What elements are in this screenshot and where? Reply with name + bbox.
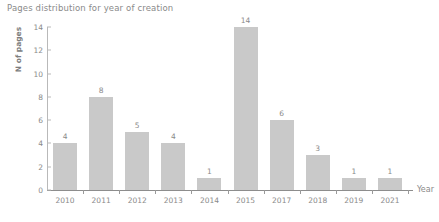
y-axis-tick-label: 12 xyxy=(0,46,47,55)
bar[interactable] xyxy=(378,178,402,190)
y-axis-tick-mark xyxy=(47,73,51,74)
y-axis-tick-mark xyxy=(47,166,51,167)
bar[interactable] xyxy=(270,120,294,190)
bar-value-label: 4 xyxy=(63,132,68,141)
bar-value-label: 6 xyxy=(279,109,284,118)
x-axis-tick-mark xyxy=(155,190,156,194)
bar-value-label: 1 xyxy=(207,167,212,176)
bar[interactable] xyxy=(306,155,330,190)
chart-title: Pages distribution for year of creation xyxy=(7,3,173,13)
y-axis-tick-mark xyxy=(47,96,51,97)
x-axis-tick-label: 2018 xyxy=(308,196,327,205)
x-axis-tick-mark xyxy=(336,190,337,194)
y-axis-tick-label: 6 xyxy=(0,116,47,125)
x-axis-tick-mark xyxy=(300,190,301,194)
y-axis-tick-mark xyxy=(47,190,51,191)
x-axis-tick-mark xyxy=(119,190,120,194)
x-axis-tick-label: 2010 xyxy=(56,196,75,205)
bar-chart: Pages distribution for year of creation … xyxy=(0,0,439,222)
x-axis-tick-mark xyxy=(408,190,409,194)
y-axis-tick-label: 2 xyxy=(0,162,47,171)
x-axis-tick-mark xyxy=(228,190,229,194)
x-axis-tick-label: 2011 xyxy=(92,196,111,205)
y-axis-tick-label: 8 xyxy=(0,92,47,101)
y-axis-tick-label: 0 xyxy=(0,186,47,195)
bar[interactable] xyxy=(53,143,77,190)
x-axis-tick-label: 2021 xyxy=(380,196,399,205)
x-axis-tick-mark xyxy=(264,190,265,194)
y-axis-tick-label: 4 xyxy=(0,139,47,148)
x-axis-tick-label: 2012 xyxy=(128,196,147,205)
bar[interactable] xyxy=(234,27,258,190)
y-axis-tick-mark xyxy=(47,120,51,121)
y-axis-tick-label: 10 xyxy=(0,69,47,78)
bar-value-label: 1 xyxy=(388,167,393,176)
bar-value-label: 5 xyxy=(135,121,140,130)
y-axis-tick-mark xyxy=(47,27,51,28)
bar-value-label: 4 xyxy=(171,132,176,141)
x-axis-line xyxy=(47,190,413,191)
bar[interactable] xyxy=(197,178,221,190)
bar-value-label: 14 xyxy=(241,16,251,25)
bar-value-label: 8 xyxy=(99,86,104,95)
bar-value-label: 1 xyxy=(351,167,356,176)
x-axis-tick-label: 2017 xyxy=(272,196,291,205)
bar-value-label: 3 xyxy=(315,144,320,153)
bar[interactable] xyxy=(89,97,113,190)
x-axis-tick-label: 2015 xyxy=(236,196,255,205)
y-axis-tick-mark xyxy=(47,50,51,51)
y-axis-tick-label: 14 xyxy=(0,23,47,32)
bar[interactable] xyxy=(125,132,149,190)
x-axis-tick-label: 2014 xyxy=(200,196,219,205)
bar[interactable] xyxy=(161,143,185,190)
x-axis-label: Year xyxy=(417,185,434,194)
x-axis-tick-mark xyxy=(191,190,192,194)
y-axis-tick-mark xyxy=(47,143,51,144)
x-axis-tick-label: 2013 xyxy=(164,196,183,205)
x-axis-tick-label: 2019 xyxy=(344,196,363,205)
x-axis-tick-mark xyxy=(83,190,84,194)
bar[interactable] xyxy=(342,178,366,190)
x-axis-tick-mark xyxy=(372,190,373,194)
